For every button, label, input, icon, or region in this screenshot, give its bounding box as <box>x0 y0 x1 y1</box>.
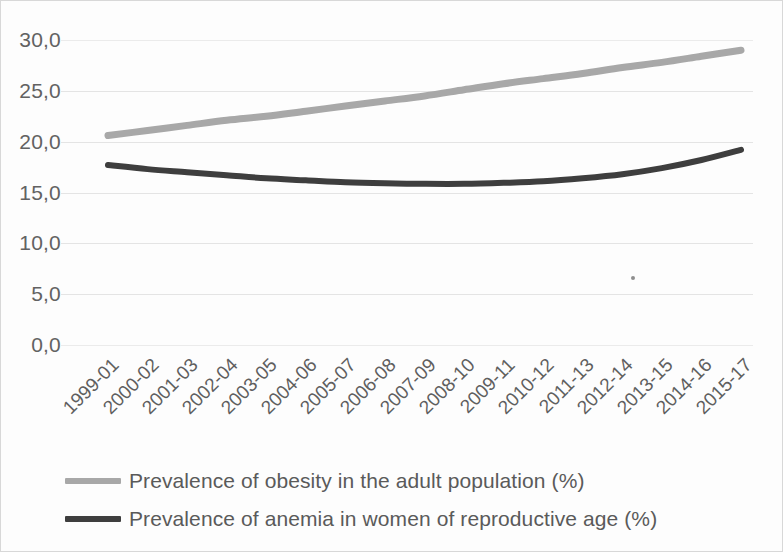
legend-line-swatch <box>65 516 121 522</box>
legend-item-label: Prevalence of obesity in the adult popul… <box>129 469 585 493</box>
legend-line-swatch <box>65 478 121 484</box>
legend-item[interactable]: Prevalence of obesity in the adult popul… <box>65 466 585 496</box>
scan-artifact-speck <box>631 276 635 280</box>
chart-screenshot: 0,05,010,015,020,025,030,0 1999-012000-0… <box>0 0 783 552</box>
chart-legend: Prevalence of obesity in the adult popul… <box>1 456 783 552</box>
x-axis: 1999-012000-022001-032002-042003-052004-… <box>1 348 783 456</box>
legend-item-label: Prevalence of anemia in women of reprodu… <box>129 507 657 531</box>
legend-item[interactable]: Prevalence of anemia in women of reprodu… <box>65 504 657 534</box>
series-line-obesity <box>108 50 741 135</box>
series-line-anemia <box>108 150 741 184</box>
